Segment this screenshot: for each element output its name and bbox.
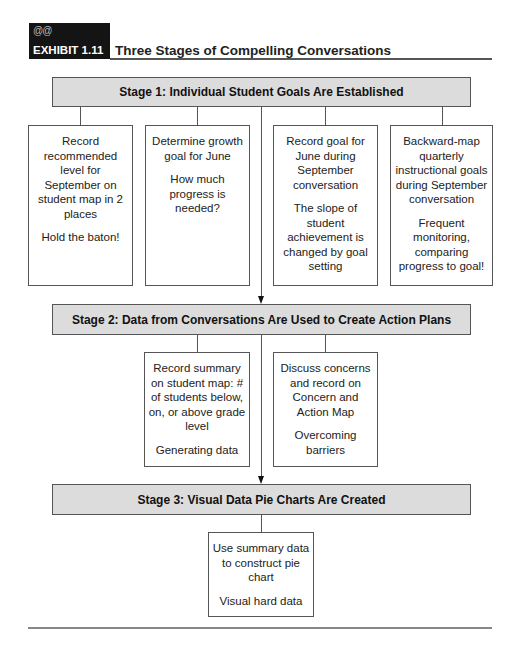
connector <box>261 515 262 533</box>
box-main-text: Backward-map quarterly instructional goa… <box>393 134 490 207</box>
exhibit-tag: @@ EXHIBIT 1.11 <box>29 23 110 59</box>
title-rule <box>110 58 492 60</box>
arrow-down-icon <box>258 296 264 304</box>
arrow-down-icon <box>258 476 264 484</box>
connector <box>80 107 81 125</box>
box-main-text: Record goal for June during September co… <box>276 134 375 192</box>
exhibit-title: Three Stages of Compelling Conversations <box>115 43 391 58</box>
box-note-text: How much progress is needed? <box>148 172 247 216</box>
connector <box>197 335 198 353</box>
stage-3-bar: Stage 3: Visual Data Pie Charts Are Crea… <box>52 484 471 515</box>
stage-1-box-1: Record recommended level for September o… <box>28 125 133 286</box>
box-main-text: Determine growth goal for June <box>148 134 247 163</box>
stage-2-bar: Stage 2: Data from Conversations Are Use… <box>52 304 471 335</box>
stage-2-box-1: Record summary on student map: # of stud… <box>144 352 250 467</box>
exhibit-label: EXHIBIT 1.11 <box>33 44 103 56</box>
stage-1-bar: Stage 1: Individual Student Goals Are Es… <box>52 77 471 107</box>
connector <box>442 107 443 125</box>
connector <box>325 107 326 125</box>
box-main-text: Record summary on student map: # of stud… <box>147 361 247 434</box>
box-note-text: The slope of student achievement is chan… <box>276 201 375 274</box>
stage-1-box-3: Record goal for June during September co… <box>273 125 378 286</box>
box-main-text: Discuss concerns and record on Concern a… <box>276 361 375 419</box>
flow-line <box>261 335 262 477</box>
box-main-text: Use summary data to construct pie chart <box>211 541 311 585</box>
connector <box>197 107 198 125</box>
flow-line <box>261 107 262 297</box>
stage-2-box-2: Discuss concerns and record on Concern a… <box>273 352 378 467</box>
box-note-text: Overcoming barriers <box>276 428 375 457</box>
box-main-text: Record recommended level for September o… <box>31 134 130 221</box>
box-note-text: Visual hard data <box>211 594 311 609</box>
box-note-text: Hold the baton! <box>31 230 130 245</box>
exhibit-ornament-icon: @@ <box>33 25 51 36</box>
stage-1-box-4: Backward-map quarterly instructional goa… <box>390 125 493 286</box>
box-note-text: Frequent monitoring, comparing progress … <box>393 216 490 274</box>
box-note-text: Generating data <box>147 443 247 458</box>
stage-3-box-1: Use summary data to construct pie chart … <box>208 532 314 617</box>
connector <box>325 335 326 353</box>
stage-1-box-2: Determine growth goal for June How much … <box>145 125 250 286</box>
bottom-rule <box>28 627 492 629</box>
